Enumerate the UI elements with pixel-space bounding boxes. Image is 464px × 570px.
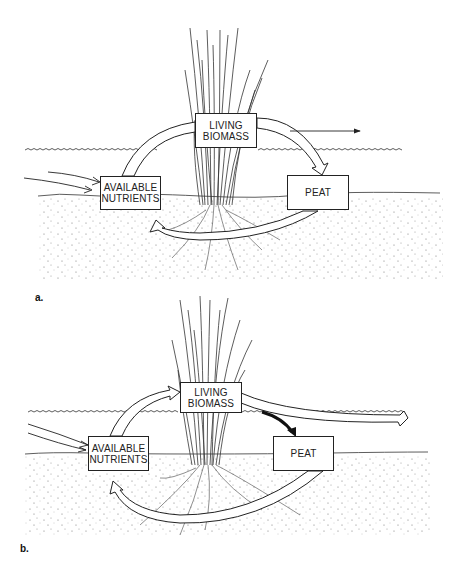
panel-label-a: a. bbox=[35, 292, 43, 303]
panel-a bbox=[24, 28, 443, 279]
box-label-line: LIVING bbox=[203, 120, 249, 131]
box-label-line: PEAT bbox=[291, 448, 317, 459]
grass-clump bbox=[172, 296, 252, 465]
input-arrow-b bbox=[28, 424, 88, 450]
water-surface-line bbox=[25, 149, 402, 151]
living-biomass-box-a: LIVINGBIOMASS bbox=[195, 113, 257, 148]
soil-stipple bbox=[38, 197, 443, 279]
box-label-line: BIOMASS bbox=[203, 131, 249, 142]
uptake-arrow-a bbox=[122, 122, 195, 176]
box-label-line: AVAILABLE bbox=[101, 182, 159, 193]
box-label-line: NUTRIENTS bbox=[89, 454, 147, 465]
peat-box-b: PEAT bbox=[273, 436, 334, 471]
box-label-line: PEAT bbox=[305, 187, 331, 198]
available-nutrients-box-a: AVAILABLENUTRIENTS bbox=[100, 176, 161, 210]
panel-b bbox=[25, 296, 430, 535]
panel-label-b: b. bbox=[20, 543, 29, 554]
peat-box-a: PEAT bbox=[287, 175, 349, 210]
diagram-canvas bbox=[0, 0, 464, 570]
input-arrowheads-b bbox=[78, 441, 88, 452]
box-label-line: LIVING bbox=[188, 387, 234, 398]
living-biomass-box-b: LIVINGBIOMASS bbox=[180, 382, 242, 413]
soil-stipple bbox=[25, 455, 430, 535]
box-label-line: AVAILABLE bbox=[89, 443, 147, 454]
available-nutrients-box-b: AVAILABLENUTRIENTS bbox=[88, 436, 149, 471]
soil-surface-line bbox=[25, 452, 428, 454]
soil-surface-line bbox=[38, 192, 440, 197]
export-arrow-b bbox=[241, 393, 408, 426]
biomass-to-peat-arrow-a bbox=[257, 118, 328, 175]
box-label-line: NUTRIENTS bbox=[101, 193, 159, 204]
box-label-line: BIOMASS bbox=[188, 398, 234, 409]
uptake-arrow-b bbox=[110, 386, 180, 436]
